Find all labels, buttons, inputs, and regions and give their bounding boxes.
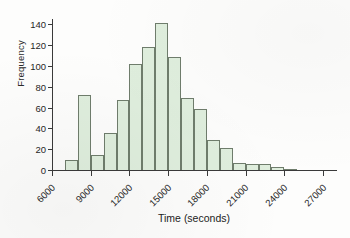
plot-area: 020406080100120140 600090001200015000180…	[52, 19, 336, 170]
y-tick-label: 120	[30, 40, 46, 51]
x-tick-label: 21000	[224, 182, 250, 208]
x-tick-mark	[52, 171, 53, 176]
histogram-bar	[284, 169, 297, 170]
x-tick-mark	[168, 171, 169, 176]
x-tick-mark	[246, 171, 247, 176]
histogram-bar	[104, 133, 117, 170]
histogram-bar	[168, 57, 181, 171]
x-tick-label: 18000	[185, 182, 211, 208]
x-tick-mark	[207, 171, 208, 176]
x-tick-mark	[91, 171, 92, 176]
y-axis-title: Frequency	[15, 14, 26, 114]
x-tick-mark	[284, 171, 285, 176]
y-tick-mark	[48, 108, 52, 109]
histogram-bar	[207, 140, 220, 170]
histogram-bar	[233, 163, 246, 170]
x-tick-label: 12000	[108, 182, 134, 208]
x-tick-mark	[129, 171, 130, 176]
histogram-bar	[181, 98, 194, 170]
x-tick-label: 27000	[302, 182, 328, 208]
histogram-bar	[259, 164, 272, 170]
y-tick-label: 140	[30, 19, 46, 30]
y-tick-label: 20	[35, 144, 46, 155]
histogram-bar	[78, 95, 91, 170]
x-tick-label: 24000	[263, 182, 289, 208]
histogram-bar	[246, 164, 259, 170]
x-axis-title: Time (seconds)	[52, 212, 336, 224]
histogram-bar	[117, 100, 130, 170]
histogram-figure: Frequency 020406080100120140 60009000120…	[0, 0, 350, 238]
histogram-bar	[142, 47, 155, 170]
x-tick-label: 9000	[73, 182, 96, 205]
histogram-bar	[194, 109, 207, 170]
histogram-bar	[271, 167, 284, 170]
y-tick-mark	[48, 149, 52, 150]
y-axis-line	[52, 19, 53, 171]
x-tick-mark	[323, 171, 324, 176]
histogram-bar	[155, 23, 168, 170]
y-tick-label: 0	[41, 165, 46, 176]
x-tick-label: 15000	[147, 182, 173, 208]
y-tick-label: 40	[35, 123, 46, 134]
x-axis-line	[52, 170, 337, 171]
x-tick-label: 6000	[34, 182, 57, 205]
y-tick-mark	[48, 128, 52, 129]
y-tick-label: 100	[30, 60, 46, 71]
y-tick-mark	[48, 66, 52, 67]
histogram-bar	[91, 155, 104, 170]
histogram-bar	[65, 160, 78, 170]
y-tick-mark	[48, 24, 52, 25]
y-tick-mark	[48, 45, 52, 46]
y-tick-mark	[48, 87, 52, 88]
histogram-bar	[220, 148, 233, 170]
histogram-bar	[129, 64, 142, 170]
y-tick-label: 80	[35, 81, 46, 92]
y-tick-label: 60	[35, 102, 46, 113]
